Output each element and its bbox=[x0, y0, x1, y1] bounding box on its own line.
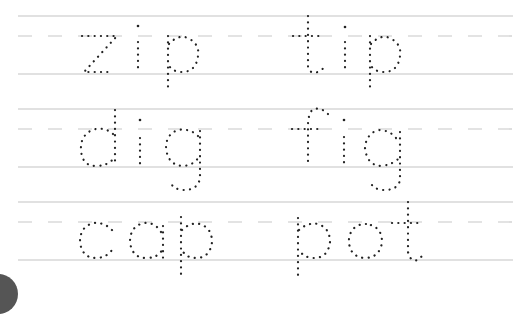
trace-word-pot bbox=[298, 202, 424, 278]
trace-word-zip bbox=[82, 25, 198, 88]
row-2-guides bbox=[18, 109, 513, 167]
trace-word-tip bbox=[293, 16, 400, 88]
row-1-guides bbox=[18, 16, 513, 74]
trace-word-dig bbox=[81, 110, 200, 190]
trace-word-fig bbox=[292, 109, 400, 190]
trace-word-cap bbox=[80, 217, 212, 278]
row-3-guides bbox=[18, 202, 513, 260]
